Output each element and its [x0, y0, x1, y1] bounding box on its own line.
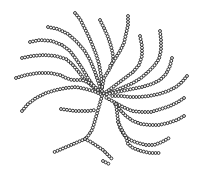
bead	[159, 33, 162, 36]
bead	[83, 110, 86, 113]
bead	[50, 72, 53, 75]
bead	[100, 75, 103, 78]
bead	[79, 87, 82, 90]
bead	[74, 110, 77, 113]
bead	[147, 95, 150, 98]
bead	[111, 91, 114, 94]
bead	[47, 54, 50, 57]
bead	[154, 124, 157, 127]
bead	[135, 87, 138, 90]
bead	[53, 150, 56, 153]
bead	[150, 111, 153, 114]
bead	[73, 86, 76, 89]
bead	[125, 32, 128, 35]
bead	[23, 56, 26, 59]
bead	[29, 41, 32, 44]
bead	[144, 111, 147, 114]
bead	[41, 72, 44, 75]
bead	[47, 26, 50, 29]
bead	[110, 46, 113, 49]
bead	[135, 96, 138, 99]
bead	[160, 41, 163, 44]
bead	[145, 123, 148, 126]
bead	[102, 80, 105, 83]
bead	[132, 87, 135, 90]
bead	[158, 53, 161, 56]
bead	[53, 72, 56, 75]
bead	[37, 39, 40, 42]
bead	[53, 54, 56, 57]
bead	[38, 54, 41, 57]
bead	[116, 114, 119, 117]
bead	[34, 39, 37, 42]
bead	[89, 109, 92, 112]
bead	[115, 103, 118, 106]
bead-chain-illustration	[0, 0, 202, 170]
bead	[167, 137, 170, 140]
bead	[56, 88, 59, 91]
bead	[123, 95, 126, 98]
bead	[52, 27, 55, 30]
bead	[124, 35, 127, 38]
bead	[70, 78, 73, 81]
bead	[142, 150, 145, 153]
bead	[138, 86, 141, 89]
bead	[115, 109, 118, 112]
bead	[32, 54, 35, 57]
bead	[65, 87, 68, 90]
bead	[120, 95, 123, 98]
bead	[154, 152, 157, 155]
bead	[41, 54, 44, 57]
bead	[151, 152, 154, 155]
bead	[127, 15, 130, 18]
bead	[103, 77, 106, 80]
bead	[109, 64, 112, 67]
bead	[31, 40, 34, 43]
bead	[159, 50, 162, 53]
bead	[68, 109, 71, 112]
bead	[46, 39, 49, 42]
bead	[77, 110, 80, 113]
bead	[138, 110, 141, 113]
bead	[129, 88, 132, 91]
bead	[117, 95, 120, 98]
bead	[145, 144, 148, 147]
bead	[98, 66, 101, 69]
bead	[26, 55, 29, 58]
bead	[135, 110, 138, 113]
bead	[126, 26, 129, 29]
bead	[68, 86, 71, 89]
bead	[141, 111, 144, 114]
bead	[105, 93, 108, 96]
bead	[111, 52, 114, 55]
bead	[63, 108, 66, 111]
bead	[62, 87, 65, 90]
bead	[35, 54, 38, 57]
bead	[80, 110, 83, 113]
bead	[159, 36, 162, 39]
bead	[60, 108, 63, 111]
bead	[160, 47, 163, 50]
bead	[140, 40, 143, 43]
bead	[141, 95, 144, 98]
bead	[142, 123, 145, 126]
bead	[114, 95, 117, 98]
bead	[145, 151, 148, 154]
bead	[56, 73, 59, 76]
bead	[127, 18, 130, 21]
bead	[76, 79, 79, 82]
bead	[144, 95, 147, 98]
bead	[79, 79, 82, 82]
bead	[117, 90, 120, 93]
bead	[141, 86, 144, 89]
bead	[92, 109, 95, 112]
bead	[43, 39, 46, 42]
bead	[123, 38, 126, 41]
bead	[132, 96, 135, 99]
bead	[49, 26, 52, 29]
bead	[148, 144, 151, 147]
bead	[101, 86, 104, 89]
bead	[157, 152, 160, 155]
bead	[65, 108, 68, 111]
bead	[71, 109, 74, 112]
